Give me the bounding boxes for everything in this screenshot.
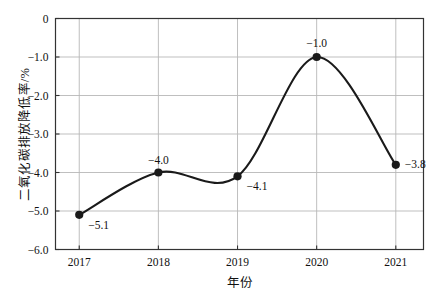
- x-tick-label: 2018: [147, 256, 170, 268]
- data-point-label: −5.1: [88, 219, 109, 231]
- data-point-label: −3.8: [405, 158, 426, 170]
- data-point-marker: [392, 161, 400, 169]
- y-tick-label: 0: [43, 13, 49, 25]
- y-tick-label: −1.0: [28, 51, 49, 63]
- y-axis-title: 二氧化碳排放降低率/%: [14, 67, 33, 200]
- y-tick-label: −6.0: [28, 244, 49, 256]
- data-point-marker: [233, 172, 241, 180]
- x-axis-title: 年份: [227, 272, 253, 291]
- data-point-marker: [154, 168, 162, 176]
- x-tick-label: 2019: [226, 256, 249, 268]
- data-point-label: −4.1: [247, 180, 268, 192]
- data-point-label: −1.0: [306, 37, 327, 49]
- chart-figure: 0−1.0−2.0−3.0−4.0−5.0−6.0 20172018201920…: [0, 0, 435, 292]
- chart-background: [0, 0, 435, 292]
- line-chart-canvas: 0−1.0−2.0−3.0−4.0−5.0−6.0 20172018201920…: [0, 0, 435, 292]
- y-tick-label: −5.0: [28, 205, 49, 217]
- x-tick-label: 2020: [305, 256, 328, 268]
- data-point-marker: [75, 211, 83, 219]
- x-tick-label: 2021: [384, 256, 407, 268]
- x-tick-label: 2017: [68, 256, 91, 268]
- data-point-label: −4.0: [148, 154, 169, 166]
- data-point-marker: [313, 53, 321, 61]
